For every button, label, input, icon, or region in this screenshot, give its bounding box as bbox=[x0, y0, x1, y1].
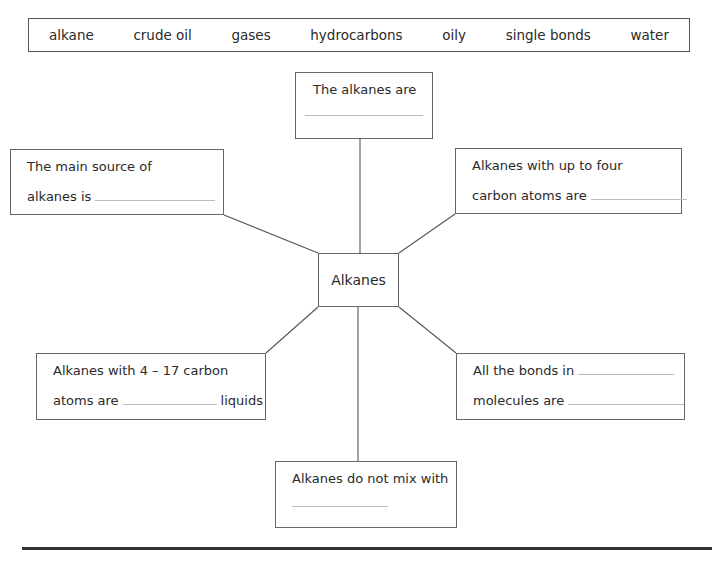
center-node: Alkanes bbox=[318, 253, 399, 307]
box-right-top: Alkanes with up to four carbon atoms are bbox=[455, 148, 682, 214]
box-top: The alkanes are bbox=[295, 72, 433, 139]
prompt-text: The main source of bbox=[27, 160, 223, 173]
center-label: Alkanes bbox=[331, 273, 386, 287]
box-right-bottom: All the bonds in molecules are bbox=[456, 353, 685, 420]
box-left-top: The main source of alkanes is bbox=[10, 149, 224, 215]
answer-blank[interactable] bbox=[591, 198, 687, 200]
prompt-text: The alkanes are bbox=[313, 83, 432, 96]
prompt-text: liquids bbox=[221, 393, 263, 408]
prompt-text: All the bonds in bbox=[473, 363, 574, 378]
prompt-text: Alkanes with 4 – 17 carbon bbox=[53, 364, 265, 377]
box-bottom: Alkanes do not mix with bbox=[275, 461, 457, 528]
box-left-bottom: Alkanes with 4 – 17 carbon atoms areliqu… bbox=[36, 353, 266, 420]
answer-blank[interactable] bbox=[305, 114, 423, 116]
prompt-text: alkanes is bbox=[27, 189, 91, 204]
answer-blank[interactable] bbox=[568, 403, 684, 405]
answer-blank[interactable] bbox=[95, 199, 215, 201]
answer-blank[interactable] bbox=[578, 373, 674, 375]
prompt-text: Alkanes with up to four bbox=[472, 159, 681, 172]
prompt-text: atoms are bbox=[53, 393, 119, 408]
bottom-divider bbox=[22, 547, 712, 550]
prompt-text: Alkanes do not mix with bbox=[292, 472, 456, 485]
prompt-text: molecules are bbox=[473, 393, 564, 408]
answer-blank[interactable] bbox=[123, 403, 217, 405]
prompt-text: carbon atoms are bbox=[472, 188, 587, 203]
answer-blank[interactable] bbox=[292, 505, 388, 507]
